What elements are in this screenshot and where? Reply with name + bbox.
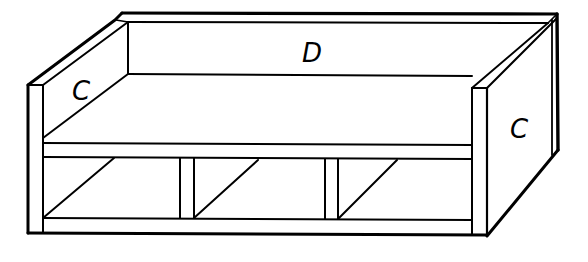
compartment-depth-lines bbox=[43, 158, 397, 219]
label-left-side: C bbox=[72, 76, 91, 106]
left-side-panel bbox=[28, 20, 128, 233]
divider-left bbox=[180, 158, 194, 218]
divider-right bbox=[325, 159, 338, 219]
lower-shelf bbox=[28, 218, 487, 235]
seat-board bbox=[43, 143, 472, 159]
label-right-side: C bbox=[510, 114, 529, 144]
back-panel bbox=[28, 13, 557, 85]
right-front-post bbox=[472, 88, 487, 236]
label-back: D bbox=[302, 38, 322, 68]
shelf-bench-diagram: C D C bbox=[0, 0, 588, 262]
